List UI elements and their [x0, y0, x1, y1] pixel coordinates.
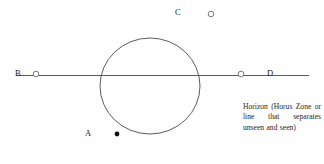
- point-label-b: B: [15, 69, 21, 78]
- point-c-marker-icon: [208, 11, 214, 17]
- point-b-marker-icon: [33, 71, 39, 77]
- point-a-marker-icon: [115, 132, 120, 137]
- horizon-diagram: A B C D Horizon (Horus Zone or line that…: [0, 0, 324, 164]
- horizon-caption: Horizon (Horus Zone or line that separat…: [243, 102, 321, 133]
- diagram-canvas: [0, 0, 324, 164]
- point-d-marker-icon: [238, 71, 244, 77]
- point-label-a: A: [85, 129, 91, 138]
- earth-circle: [100, 38, 200, 134]
- point-label-c: C: [175, 8, 181, 17]
- point-label-d: D: [267, 69, 273, 78]
